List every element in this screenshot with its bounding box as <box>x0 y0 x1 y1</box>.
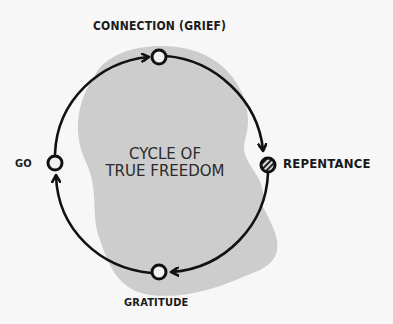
center-title: CYCLE OF TRUE FREEDOM <box>100 146 230 180</box>
node-go <box>48 156 62 170</box>
node-repentance <box>261 158 275 172</box>
center-title-line-1: CYCLE OF <box>100 146 230 163</box>
node-gratitude <box>152 265 166 279</box>
label-connection: CONNECTION (GRIEF) <box>93 19 226 33</box>
label-go: GO <box>15 157 32 170</box>
node-connection <box>152 50 166 64</box>
label-gratitude: GRATITUDE <box>124 296 189 309</box>
center-title-line-2: TRUE FREEDOM <box>100 163 230 180</box>
label-repentance: REPENTANCE <box>283 156 371 171</box>
